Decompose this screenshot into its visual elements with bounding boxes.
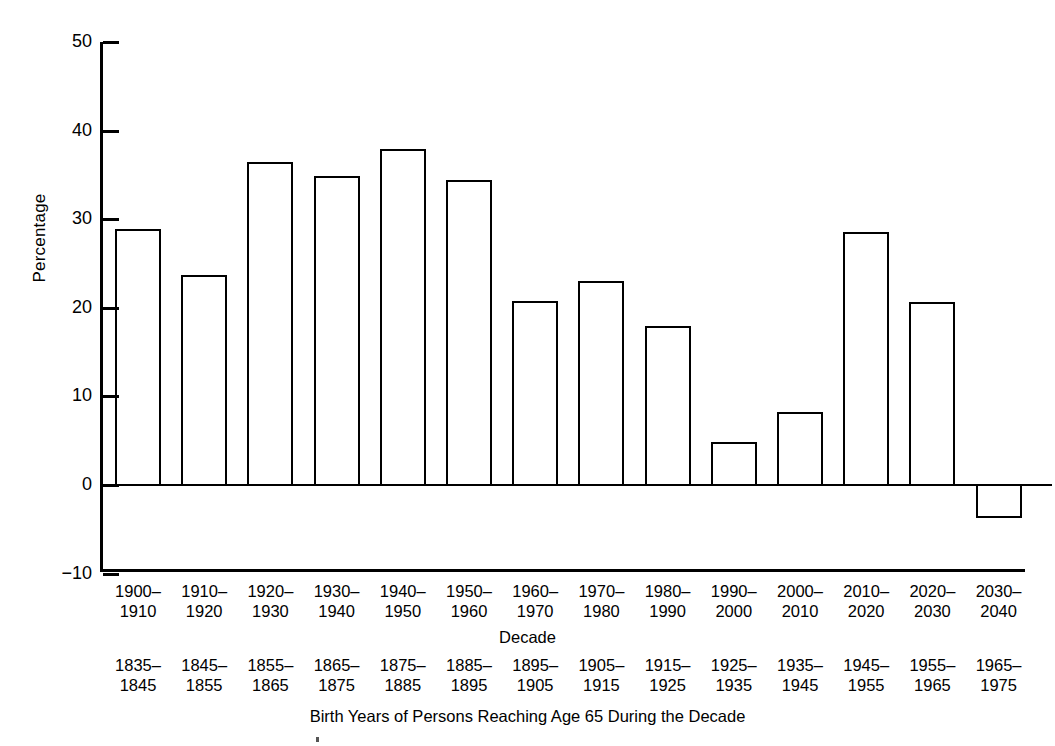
birth-year-label-line1: 1945– bbox=[831, 655, 901, 675]
x-tick-label-line1: 2010– bbox=[831, 581, 901, 601]
x-tick-label: 1910–1920 bbox=[169, 581, 239, 621]
x-tick-label: 1980–1990 bbox=[633, 581, 703, 621]
birth-year-label: 1875–1885 bbox=[368, 655, 438, 695]
x-tick-label-line1: 2020– bbox=[897, 581, 967, 601]
birth-year-label-line2: 1845 bbox=[103, 675, 173, 695]
birth-year-label-line2: 1955 bbox=[831, 675, 901, 695]
x-tick-label-line1: 1900– bbox=[103, 581, 173, 601]
x-tick-label-line2: 1910 bbox=[103, 601, 173, 621]
birth-year-label: 1855–1865 bbox=[235, 655, 305, 695]
x-tick-label-line2: 2010 bbox=[765, 601, 835, 621]
x-tick-label-line1: 1910– bbox=[169, 581, 239, 601]
x-tick-label-line1: 1950– bbox=[434, 581, 504, 601]
x-tick-label: 1920–1930 bbox=[235, 581, 305, 621]
y-axis-tick-label-wrap: 20 bbox=[30, 298, 92, 316]
y-axis-tick bbox=[103, 573, 119, 576]
x-tick-label-line1: 2030– bbox=[964, 581, 1034, 601]
birth-year-label-line2: 1905 bbox=[500, 675, 570, 695]
y-axis-tick-label: 40 bbox=[32, 121, 92, 139]
birth-year-label-line1: 1895– bbox=[500, 655, 570, 675]
birth-year-label-line1: 1955– bbox=[897, 655, 967, 675]
birth-year-label-line1: 1965– bbox=[964, 655, 1034, 675]
y-axis-tick-label: 10 bbox=[32, 386, 92, 404]
birth-year-label-line1: 1875– bbox=[368, 655, 438, 675]
y-axis-tick-label-wrap: 30 bbox=[30, 209, 92, 227]
birth-year-label-line1: 1865– bbox=[302, 655, 372, 675]
bar bbox=[578, 281, 624, 485]
birth-year-label-line1: 1835– bbox=[103, 655, 173, 675]
bar bbox=[115, 229, 161, 485]
birth-year-label: 1905–1915 bbox=[566, 655, 636, 695]
x-tick-label-line2: 2000 bbox=[699, 601, 769, 621]
birth-year-label-line2: 1865 bbox=[235, 675, 305, 695]
birth-year-label-line1: 1935– bbox=[765, 655, 835, 675]
y-axis-tick-label-wrap: 0 bbox=[30, 475, 92, 493]
bar bbox=[446, 180, 492, 485]
y-axis-tick-label-wrap: 40 bbox=[30, 121, 92, 139]
x-tick-label-line2: 1930 bbox=[235, 601, 305, 621]
birth-year-label: 1935–1945 bbox=[765, 655, 835, 695]
x-tick-label-line2: 1920 bbox=[169, 601, 239, 621]
x-tick-label-line2: 2020 bbox=[831, 601, 901, 621]
x-tick-label: 2010–2020 bbox=[831, 581, 901, 621]
y-axis-tick-label-wrap: −10 bbox=[30, 564, 92, 582]
birth-year-label-line2: 1895 bbox=[434, 675, 504, 695]
x-tick-label-line1: 1960– bbox=[500, 581, 570, 601]
birth-year-label-line1: 1845– bbox=[169, 655, 239, 675]
bar bbox=[909, 302, 955, 485]
birth-year-label: 1925–1935 bbox=[699, 655, 769, 695]
bar bbox=[645, 326, 691, 485]
x-tick-label-line2: 1980 bbox=[566, 601, 636, 621]
birth-year-label-line2: 1975 bbox=[964, 675, 1034, 695]
x-tick-label-line1: 1970– bbox=[566, 581, 636, 601]
x-tick-label-line1: 1920– bbox=[235, 581, 305, 601]
x-tick-label: 1930–1940 bbox=[302, 581, 372, 621]
birth-year-label-line1: 1915– bbox=[633, 655, 703, 675]
x-tick-label: 1950–1960 bbox=[434, 581, 504, 621]
y-axis-tick bbox=[103, 218, 119, 221]
birth-year-label-line1: 1855– bbox=[235, 655, 305, 675]
birth-year-label-line2: 1965 bbox=[897, 675, 967, 695]
birth-year-label-line1: 1925– bbox=[699, 655, 769, 675]
bar bbox=[711, 442, 757, 485]
x-tick-label-line1: 1930– bbox=[302, 581, 372, 601]
page-artifact-mark bbox=[316, 737, 319, 742]
birth-year-label: 1835–1845 bbox=[103, 655, 173, 695]
birth-year-label: 1845–1855 bbox=[169, 655, 239, 695]
y-axis-tick-label: 30 bbox=[32, 209, 92, 227]
birth-year-label-line2: 1875 bbox=[302, 675, 372, 695]
x-tick-label-line2: 1960 bbox=[434, 601, 504, 621]
x-tick-label-line1: 2000– bbox=[765, 581, 835, 601]
x-tick-label: 2030–2040 bbox=[964, 581, 1034, 621]
y-axis-tick bbox=[103, 130, 119, 133]
x-axis-label: Decade bbox=[0, 628, 1055, 647]
bar bbox=[777, 412, 823, 485]
birth-year-label-line2: 1945 bbox=[765, 675, 835, 695]
bar bbox=[380, 149, 426, 485]
birth-year-label: 1955–1965 bbox=[897, 655, 967, 695]
x-axis-line bbox=[100, 569, 1025, 572]
x-tick-label-line2: 1950 bbox=[368, 601, 438, 621]
bar bbox=[314, 176, 360, 485]
y-axis-tick-label: 0 bbox=[32, 475, 92, 493]
x-tick-label: 1960–1970 bbox=[500, 581, 570, 621]
x-tick-label: 2020–2030 bbox=[897, 581, 967, 621]
birth-year-label: 1885–1895 bbox=[434, 655, 504, 695]
y-axis-title: Percentage bbox=[30, 158, 50, 318]
birth-year-label-line2: 1935 bbox=[699, 675, 769, 695]
birth-year-label-line2: 1925 bbox=[633, 675, 703, 695]
x-tick-label-line2: 2040 bbox=[964, 601, 1034, 621]
y-axis-tick-label: 20 bbox=[32, 298, 92, 316]
birth-year-label: 1965–1975 bbox=[964, 655, 1034, 695]
birth-year-label-line1: 1885– bbox=[434, 655, 504, 675]
x-tick-label-line1: 1990– bbox=[699, 581, 769, 601]
birth-year-label: 1865–1875 bbox=[302, 655, 372, 695]
y-axis-tick bbox=[103, 41, 119, 44]
birth-year-label: 1915–1925 bbox=[633, 655, 703, 695]
birth-year-label-line2: 1855 bbox=[169, 675, 239, 695]
x-tick-label: 1990–2000 bbox=[699, 581, 769, 621]
x-tick-label-line1: 1980– bbox=[633, 581, 703, 601]
x-tick-label-line2: 2030 bbox=[897, 601, 967, 621]
x-tick-label-line2: 1990 bbox=[633, 601, 703, 621]
birth-year-label-line2: 1885 bbox=[368, 675, 438, 695]
